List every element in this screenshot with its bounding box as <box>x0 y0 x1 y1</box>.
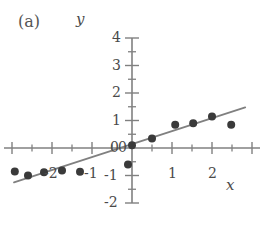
plot-canvas <box>0 0 261 227</box>
x-tick-label-2: -1 <box>84 166 98 180</box>
y-tick-label-3: 1 <box>112 113 121 127</box>
y-tick-label-6: 4 <box>112 30 121 44</box>
x-tick-label-5: 2 <box>208 166 217 180</box>
y-tick-label-2: 0 <box>110 140 119 154</box>
y-axis-label: y <box>76 12 84 27</box>
scatter-plot-figure: (a) y x -2-1012-2-101234 <box>0 0 261 227</box>
panel-label: (a) <box>18 14 40 30</box>
y-tick-label-0: -2 <box>104 195 118 209</box>
x-tick-label-4: 1 <box>168 166 177 180</box>
x-tick-label-3: 0 <box>118 140 127 154</box>
x-tick-label-1: -2 <box>44 166 58 180</box>
x-axis-label: x <box>226 178 234 193</box>
y-tick-label-5: 3 <box>112 58 121 72</box>
y-tick-label-1: -1 <box>104 168 118 182</box>
y-tick-label-4: 2 <box>112 85 121 99</box>
